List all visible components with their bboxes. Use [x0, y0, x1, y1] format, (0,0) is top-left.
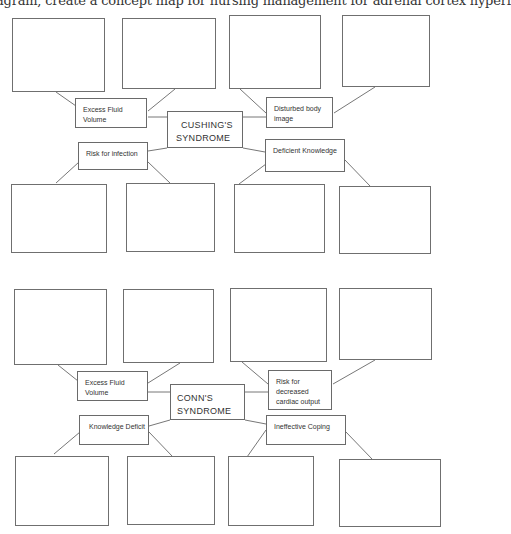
connector-line [245, 420, 266, 424]
cushings-syndrome-center: CUSHING'S SYNDROME [167, 111, 243, 148]
connector-line [247, 430, 266, 457]
connector-line [243, 148, 265, 152]
node-label: Risk for infection [86, 150, 138, 157]
conns-node-knowledge-deficit: Knowledge Deficit [79, 415, 149, 445]
cushings-blank-box-7[interactable] [234, 184, 325, 253]
conns-blank-box-7[interactable] [228, 456, 314, 526]
cushings-node-excess-fluid-volume: Excess Fluid Volume [75, 98, 147, 128]
node-label: Excess Fluid Volume [83, 105, 131, 125]
conns-blank-box-3[interactable] [230, 288, 327, 362]
node-label: Excess Fluid Volume [85, 378, 133, 398]
connector-line [148, 89, 175, 111]
connector-line [148, 363, 180, 383]
node-label: Knowledge Deficit [89, 423, 145, 430]
connector-line [148, 148, 167, 151]
conns-blank-box-2[interactable] [123, 289, 214, 363]
cushings-blank-box-1[interactable] [12, 18, 105, 92]
center-label-line2: SYNDROME [176, 132, 242, 145]
connector-line [334, 87, 375, 113]
cushings-node-disturbed-body-image: Disturbed body image [266, 97, 333, 128]
conns-node-ineffective-coping: Ineffective Coping [266, 415, 346, 445]
conns-blank-box-6[interactable] [127, 456, 215, 525]
node-label: Risk for decreased cardiac output [276, 377, 326, 407]
node-label: Disturbed body image [274, 104, 328, 124]
node-label: Deficient Knowledge [273, 147, 337, 154]
cushings-blank-box-8[interactable] [339, 186, 431, 254]
connector-line [148, 162, 170, 183]
connector-line [345, 160, 370, 186]
conns-syndrome-center: CONN'S SYNDROME [170, 384, 245, 420]
cushings-node-deficient-knowledge: Deficient Knowledge [265, 139, 345, 172]
connector-line [240, 89, 266, 113]
cushings-node-risk-for-infection: Risk for infection [78, 142, 148, 170]
node-label: Ineffective Coping [274, 423, 330, 430]
cushings-concept-map: Excess Fluid Volume Disturbed body image… [0, 0, 445, 270]
center-label-line1: CONN'S [177, 392, 244, 405]
cushings-blank-box-2[interactable] [122, 18, 216, 89]
connector-line [54, 432, 80, 454]
center-label-line1: CUSHING'S [181, 119, 242, 132]
conns-node-excess-fluid-volume: Excess Fluid Volume [77, 371, 148, 401]
connector-line [56, 92, 76, 106]
connector-line [242, 362, 268, 384]
cushings-blank-box-3[interactable] [229, 15, 321, 89]
cushings-blank-box-5[interactable] [11, 184, 107, 253]
connector-line [333, 360, 375, 384]
conns-blank-box-8[interactable] [339, 459, 441, 527]
conns-node-risk-for-decreased-cardiac-output: Risk for decreased cardiac output [268, 370, 332, 410]
connector-line [239, 164, 266, 184]
cushings-blank-box-6[interactable] [126, 183, 215, 252]
connector-line [58, 365, 78, 381]
center-label-line2: SYNDROME [177, 405, 244, 418]
conns-blank-box-1[interactable] [14, 289, 107, 365]
connector-line [149, 432, 172, 456]
connector-line [56, 162, 79, 183]
conns-blank-box-4[interactable] [339, 288, 432, 360]
connector-line [346, 432, 372, 459]
connector-line [149, 420, 170, 426]
cushings-blank-box-4[interactable] [342, 15, 430, 87]
conns-blank-box-5[interactable] [15, 456, 109, 526]
